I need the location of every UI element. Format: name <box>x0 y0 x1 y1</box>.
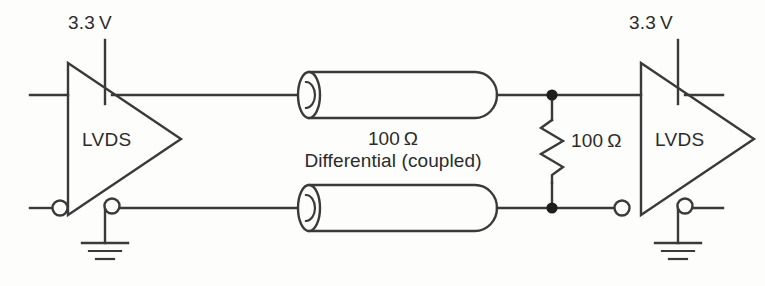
supply-label-right: 3.3 V <box>629 12 673 34</box>
termination-value-label: 100 Ω <box>571 130 622 152</box>
inversion-bubble-icon-left-input <box>53 201 68 216</box>
interconnect-type-label: Differential (coupled) <box>268 150 518 172</box>
receiver-label-right: LVDS <box>655 129 704 151</box>
interconnect-impedance-value: 100 Ω <box>368 128 418 149</box>
coax-cable-icon-bottom <box>298 185 552 231</box>
schematic-canvas: 3.3 V 3.3 V LVDS LVDS 100 Ω Differential… <box>0 0 765 286</box>
resistor-icon-termination <box>541 95 563 208</box>
inversion-bubble-icon-left-output <box>105 199 120 214</box>
inversion-bubble-icon-right-output <box>678 199 693 214</box>
driver-label-left: LVDS <box>82 129 131 151</box>
coax-cable-icon-top <box>298 72 552 118</box>
interconnect-impedance-label: 100 Ω Differential (coupled) <box>268 128 518 173</box>
inversion-bubble-icon-right-input <box>615 201 630 216</box>
ground-icon-right <box>655 205 701 259</box>
supply-label-left: 3.3 V <box>68 12 112 34</box>
junction-dot-icon-bottom <box>546 202 557 213</box>
ground-icon-left <box>82 205 128 259</box>
junction-dot-icon-top <box>546 89 557 100</box>
